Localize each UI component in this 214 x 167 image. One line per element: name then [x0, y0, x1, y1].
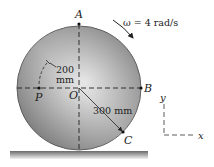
angular-velocity-label: ω = 4 rad/s	[123, 17, 178, 28]
label-c: C	[124, 134, 133, 147]
rolling-disk-diagram: A B C O P ω = 4 rad/s 200 mm 300 mm y x	[0, 0, 214, 167]
point-b-dot	[139, 86, 142, 89]
label-a: A	[74, 8, 83, 21]
point-p-dot	[37, 86, 40, 89]
x-axis-label: x	[198, 130, 204, 141]
label-b: B	[143, 82, 152, 95]
label-p: P	[34, 91, 43, 104]
point-a-dot	[77, 22, 80, 25]
dimension-200-unit: mm	[56, 74, 74, 85]
y-axis-label: y	[159, 92, 166, 103]
label-o: O	[69, 89, 78, 102]
dimension-300-label: 300 mm	[93, 105, 132, 116]
ground-surface	[10, 151, 148, 159]
